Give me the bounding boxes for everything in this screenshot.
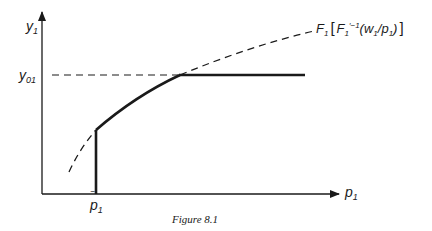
- x-axis-label: p1: [344, 184, 358, 202]
- y01-label: y01: [18, 67, 36, 85]
- figure-caption: Figure 8.1: [171, 213, 218, 225]
- y-axis-label: y1: [25, 18, 38, 36]
- p-bar-label: p1: [89, 197, 103, 215]
- curve-label: F1[F1′−1(w1/p1)]: [316, 19, 404, 38]
- dashed-curve-lower: [69, 130, 96, 172]
- supply-curve-solid: [96, 75, 180, 130]
- dashed-curve-upper: [180, 31, 314, 75]
- figure-diagram: y1 y01 p1 ‾ p1 F1[F1′−1(w1/p1)] Figure 8…: [0, 0, 432, 231]
